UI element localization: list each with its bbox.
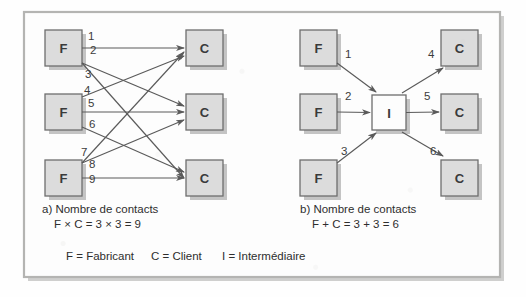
figure-canvas: FFFCCCFFFICCC 123456789123456 a) Nombre … xyxy=(0,0,526,297)
panel-b-source-0-label: F xyxy=(315,41,323,56)
panel-a-number-2: 2 xyxy=(90,44,96,56)
panel-a-caption-line1: a) Nombre de contacts xyxy=(42,203,159,215)
legend-entry-i: I = Intermédiaire xyxy=(222,250,305,262)
panel-b-caption-line1: b) Nombre de contacts xyxy=(300,203,417,215)
panel-b-number-6: 6 xyxy=(430,145,436,157)
legend-entry-f: F = Fabricant xyxy=(66,250,135,262)
panel-a-number-4: 4 xyxy=(84,84,91,96)
panel-a-target-1-label: C xyxy=(200,105,210,120)
panel-a-source-1-label: F xyxy=(60,105,68,120)
panel-b-target-1-label: C xyxy=(455,105,465,120)
panel-a-number-3: 3 xyxy=(85,68,91,80)
panel-b-number-1: 1 xyxy=(345,48,351,60)
panel-b-arrow-5 xyxy=(406,112,439,113)
panel-b-target-0-label: C xyxy=(455,41,465,56)
panel-b-number-3: 3 xyxy=(341,145,347,157)
panel-b-target-2-label: C xyxy=(455,171,465,186)
panel-b-caption-line2: F + C = 3 + 3 = 6 xyxy=(312,218,399,230)
panel-a-caption-line2: F × C = 3 × 3 = 9 xyxy=(54,218,141,230)
panel-a-target-2-label: C xyxy=(200,171,210,186)
panel-b-number-5: 5 xyxy=(424,90,430,102)
panel-a-number-6: 6 xyxy=(89,118,95,130)
panel-a-source-0-label: F xyxy=(60,41,68,56)
panel-b-source-1-label: F xyxy=(315,105,323,120)
panel-a-target-0-label: C xyxy=(200,41,210,56)
panel-a-source-2-label: F xyxy=(60,171,68,186)
panel-b-source-2-label: F xyxy=(315,171,323,186)
panel-a-number-1: 1 xyxy=(88,30,94,42)
panel-a-number-5: 5 xyxy=(88,97,94,109)
panel-a-number-8: 8 xyxy=(89,158,95,170)
legend-entry-c: C = Client xyxy=(151,250,203,262)
panel-b-number-2: 2 xyxy=(345,90,351,102)
panel-a-number-9: 9 xyxy=(89,173,95,185)
panel-b-intermediary-label: I xyxy=(387,106,391,121)
panel-b-number-4: 4 xyxy=(428,48,435,60)
panel-b-arrow-2 xyxy=(337,112,370,113)
panel-a-number-7: 7 xyxy=(81,146,87,158)
figure-root: FFFCCCFFFICCC 123456789123456 a) Nombre … xyxy=(0,0,526,297)
